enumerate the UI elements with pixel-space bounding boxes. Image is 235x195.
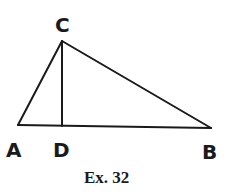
label-B: B: [202, 140, 217, 164]
segment-CB: [62, 41, 211, 128]
segment-AC: [18, 41, 62, 125]
triangle-diagram: C A D B Ex. 32: [0, 0, 235, 195]
label-C: C: [55, 13, 70, 37]
figure-caption: Ex. 32: [84, 168, 129, 187]
label-A: A: [6, 138, 22, 162]
segment-AB: [18, 125, 211, 128]
label-D: D: [53, 138, 70, 162]
